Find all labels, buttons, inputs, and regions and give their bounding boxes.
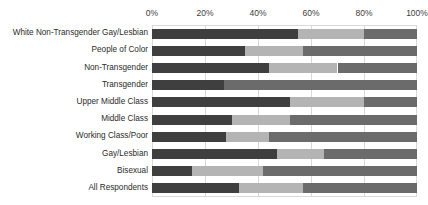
bar-segment-segment-1 xyxy=(152,80,224,90)
bar-segment-segment-2 xyxy=(232,115,290,125)
bar-row xyxy=(152,63,417,73)
category-label: Upper Middle Class xyxy=(0,97,148,107)
bar-row xyxy=(152,97,417,107)
bar-segment-segment-1 xyxy=(152,115,232,125)
bar-segment-segment-2 xyxy=(269,63,338,73)
bar-segment-segment-2 xyxy=(245,46,303,56)
bar-segment-segment-1 xyxy=(152,46,245,56)
bar-segment-segment-3 xyxy=(290,115,417,125)
bar-segment-segment-3 xyxy=(324,149,417,159)
bar-row xyxy=(152,132,417,142)
bar-segment-segment-3 xyxy=(269,132,417,142)
bar-segment-segment-2 xyxy=(298,29,364,39)
bar-segment-segment-2 xyxy=(290,97,364,107)
x-axis-tick-60: 60% xyxy=(302,8,319,19)
bar-row xyxy=(152,149,417,159)
bar-segment-segment-3 xyxy=(364,29,417,39)
x-axis-tick-80: 80% xyxy=(355,8,372,19)
category-label: Middle Class xyxy=(0,114,148,124)
bar-segment-segment-3 xyxy=(338,63,418,73)
category-label: People of Color xyxy=(0,45,148,55)
bar-segment-segment-1 xyxy=(152,132,226,142)
x-axis-tick-labels: 0%20%40%60%80%100% xyxy=(0,8,427,22)
x-axis-tick-100: 100% xyxy=(406,8,428,19)
bar-row xyxy=(152,166,417,176)
bar-row xyxy=(152,183,417,193)
category-label: Working Class/Poor xyxy=(0,131,148,141)
bar-segment-segment-3 xyxy=(263,166,417,176)
bar-segment-segment-2 xyxy=(277,149,325,159)
x-axis-tick-0: 0% xyxy=(146,8,158,19)
bar-segment-segment-1 xyxy=(152,97,290,107)
bar-segment-segment-1 xyxy=(152,183,239,193)
category-label: Gay/Lesbian xyxy=(0,149,148,159)
category-axis-labels: White Non-Transgender Gay/LesbianPeople … xyxy=(0,25,148,197)
bar-row xyxy=(152,46,417,56)
category-label: White Non-Transgender Gay/Lesbian xyxy=(0,28,148,38)
bar-segment-segment-3 xyxy=(224,80,417,90)
bars-layer xyxy=(152,25,417,197)
bar-segment-segment-3 xyxy=(303,46,417,56)
category-label: Bisexual xyxy=(0,166,148,176)
bar-segment-segment-1 xyxy=(152,149,277,159)
bar-segment-segment-2 xyxy=(239,183,303,193)
x-axis-tick-40: 40% xyxy=(249,8,266,19)
bar-segment-segment-3 xyxy=(303,183,417,193)
bar-segment-segment-3 xyxy=(364,97,417,107)
bar-row xyxy=(152,115,417,125)
category-label: Non-Transgender xyxy=(0,63,148,73)
bar-segment-segment-2 xyxy=(192,166,264,176)
bar-segment-segment-2 xyxy=(226,132,268,142)
bar-row xyxy=(152,80,417,90)
category-label: All Respondents xyxy=(0,183,148,193)
x-axis-tick-20: 20% xyxy=(196,8,213,19)
bar-segment-segment-1 xyxy=(152,166,192,176)
category-label: Transgender xyxy=(0,80,148,90)
bar-segment-segment-1 xyxy=(152,29,298,39)
bar-row xyxy=(152,29,417,39)
bar-segment-segment-1 xyxy=(152,63,269,73)
